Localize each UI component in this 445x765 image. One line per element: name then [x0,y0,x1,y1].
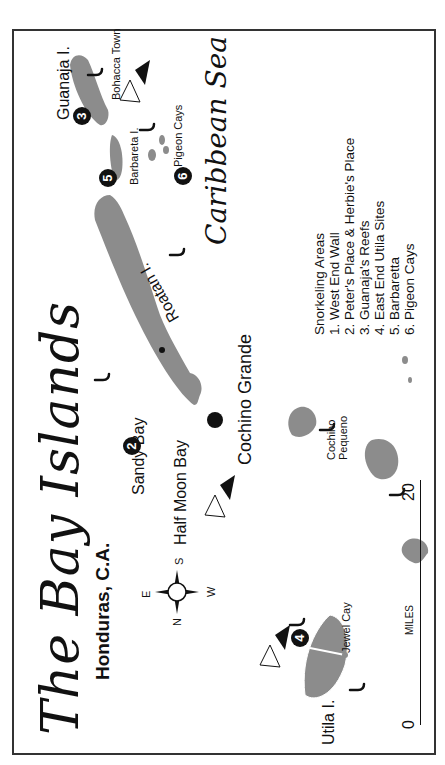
compass-s: S [173,558,185,565]
pigeon-cay-1 [148,149,156,161]
label-bohacca-town: Bohacca Town [110,29,122,100]
legend-item: 2. Peter's Place & Herbie's Place [342,138,357,335]
scale-unit: MILES [404,605,415,635]
snorkel-icon [170,249,184,255]
roatan-town-marker [159,347,165,353]
label-guanaja: Guanaja I. [55,46,73,120]
marker-4: 4 [291,629,309,647]
legend-item: 1. West End Wall [327,138,342,335]
label-barbareta: Barbareta I. [128,128,140,185]
sailboat-icon [205,475,235,517]
map-canvas: The Bay Islands Honduras, C.A. E W N S U… [0,0,445,765]
legend-item: 4. East End Utila Sites [372,138,387,335]
legend-title: Snorkeling Areas [312,138,327,335]
snorkel-icon [140,124,154,130]
marker-6: 6 [174,167,192,185]
label-cochino-grande: Cochino Grande [235,334,256,465]
cochino-pequeno-island [365,439,398,479]
scale-end: 20 [400,483,418,501]
label-cochino-pequeno: Cochino Pequeno [325,410,349,460]
sailboat-icon [120,60,150,102]
map-subtitle: Honduras, C.A. [92,543,114,680]
scale-bar [420,480,421,725]
snorkel-icon [290,619,304,625]
legend-item: 5. Barbaretta [387,138,402,335]
pigeon-cay-3 [163,146,169,154]
scale-start: 0 [400,720,418,729]
cochino-grande-island [288,407,316,437]
roatan-island [94,195,201,405]
label-sandy-bay: Sandy Bay [130,418,148,495]
label-jewel-cay: Jewel Cay [340,602,352,653]
snorkel-icon [350,684,364,690]
marker-3: 3 [73,107,91,125]
marker-2: 2 [123,437,141,455]
label-half-moon-bay: Half Moon Bay [172,440,190,545]
sailboat-icon [260,625,290,667]
half-moon-bay-marker [207,412,223,428]
pigeon-cay-2 [159,135,165,145]
snorkel-icon [95,374,109,380]
cochino-islet-1 [402,538,428,563]
label-utila: Utila I. [320,700,338,745]
compass-w: W [205,587,217,597]
compass-e: E [140,591,152,598]
label-pigeon-cays: Pigeon Cays [172,105,184,167]
sea-label: Caribbean Sea [200,36,233,245]
snorkel-legend: Snorkeling Areas 1. West End Wall 2. Pet… [312,138,417,335]
map-title: The Bay Islands [30,301,90,735]
compass-n: N [171,618,183,626]
legend-item: 6. Pigeon Cays [402,138,417,335]
compass-rose-icon [155,570,199,614]
legend-item: 3. Guanaja's Reefs [357,138,372,335]
marker-5: 5 [99,169,117,187]
